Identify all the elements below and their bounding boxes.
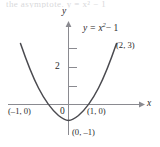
x-axis-label: x [147, 99, 151, 109]
origin-label: 0 [60, 107, 65, 117]
parabola-graph [0, 0, 160, 147]
equation-tail: − 1 [106, 23, 118, 33]
y-axis-ticks [69, 49, 78, 87]
point-label-x-intercept-right: (1, 0) [87, 107, 106, 116]
equation-label: y = x2− 1 [83, 22, 118, 34]
point-label-upper-right: (2, 3) [116, 41, 135, 50]
equation-head: y = x [83, 23, 103, 33]
point-label-x-intercept-left: (–1, 0) [8, 107, 31, 116]
y-tick-label-2: 2 [55, 62, 60, 72]
point-label-y-intercept: (0, –1) [72, 128, 95, 137]
y-axis-label: y [62, 7, 66, 17]
y-axis [66, 21, 72, 135]
